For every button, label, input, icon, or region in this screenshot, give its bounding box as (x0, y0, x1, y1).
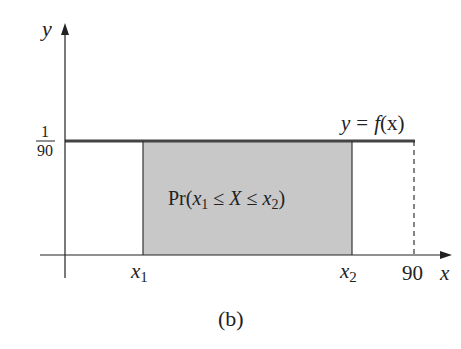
x-axis-arrow-icon (440, 251, 452, 259)
curve-label: y=f(x) (339, 111, 405, 135)
x-axis-label: x (439, 261, 450, 285)
y-axis-label: y (40, 16, 52, 41)
probability-label: Pr(x1 ≤ X ≤ x2) (168, 187, 285, 212)
y-tick-numerator: 1 (41, 123, 49, 140)
uniform-density-diagram: y 1 90 y=f(x) Pr(x1 ≤ X ≤ x2) x1 x2 90 x… (0, 0, 461, 349)
x1-label: x1 (130, 259, 148, 285)
y-tick-denominator: 90 (37, 142, 53, 159)
figure-caption: (b) (218, 306, 244, 331)
y-axis-arrow-icon (61, 23, 69, 35)
x-tick-90: 90 (402, 261, 423, 285)
x2-label: x2 (339, 259, 357, 285)
